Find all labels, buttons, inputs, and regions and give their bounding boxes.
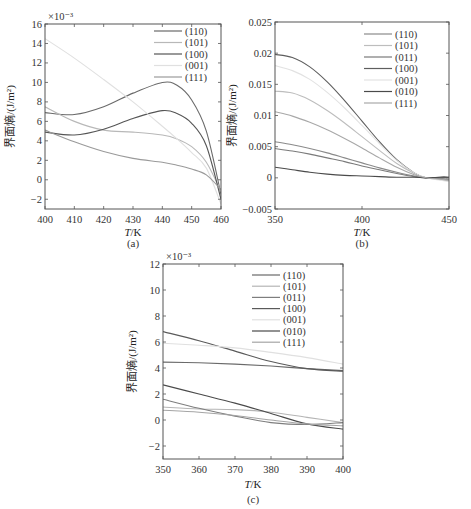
y-tick-label: 0.005	[248, 141, 272, 152]
y-tick-label: 14	[32, 38, 43, 49]
y-tick-label: 12	[150, 259, 161, 270]
legend-label: (111)	[185, 72, 207, 84]
series-lines	[275, 54, 449, 181]
legend-label: (001)	[185, 60, 208, 72]
y-tick-label: 10	[150, 285, 161, 296]
series-line-101	[163, 407, 343, 423]
y-tick-label: 0.02	[254, 48, 272, 59]
x-tick-label: 420	[96, 214, 112, 225]
series-line-100	[275, 54, 449, 178]
panel-caption: (c)	[247, 493, 260, 506]
legend-label: (011)	[283, 292, 306, 304]
y-tick-label: 0.01	[254, 110, 272, 121]
x-tick-label: 450	[441, 214, 457, 225]
legend: (110)(101)(100)(001)(111)	[154, 26, 208, 84]
chart-panel-c: 350360370380390400−2024681012×10⁻³T/K界面熵…	[125, 251, 351, 506]
legend-label: (101)	[283, 281, 306, 293]
legend: (110)(101)(011)(100)(001)(010)(111)	[252, 270, 306, 349]
legend-label: (101)	[185, 37, 208, 49]
y-tick-label: 0.025	[248, 17, 272, 28]
y-tick-label: 16	[32, 19, 43, 30]
series-line-111	[45, 130, 221, 189]
legend-label: (001)	[283, 314, 306, 326]
figure-canvas: 400410420430440450460−20246810121416×10⁻…	[0, 0, 471, 509]
series-line-011	[275, 149, 449, 180]
y-tick-label: 6	[37, 116, 42, 127]
y-tick-label: 10	[32, 77, 43, 88]
y-tick-label: 6	[155, 337, 160, 348]
chart-panel-a: 400410420430440450460−20246810121416×10⁻…	[3, 11, 229, 250]
x-tick-label: 440	[154, 214, 170, 225]
y-tick-label: 12	[32, 57, 43, 68]
series-line-001	[163, 343, 343, 364]
legend-label: (011)	[395, 52, 418, 64]
x-tick-label: 460	[213, 214, 229, 225]
legend-label: (111)	[283, 337, 305, 349]
x-axis-label: T/K	[244, 478, 261, 490]
y-multiplier-label: ×10⁻³	[48, 11, 73, 22]
y-tick-label: 4	[37, 135, 43, 146]
y-axis-label: 界面熵/(J/m²)	[125, 330, 139, 393]
series-line-101	[275, 91, 449, 181]
chart-panel-b: 350400450−0.00500.0050.010.0150.020.025T…	[225, 17, 457, 251]
x-tick-label: 390	[299, 464, 315, 475]
series-line-111	[163, 410, 343, 426]
panel-caption: (a)	[127, 237, 140, 250]
x-tick-label: 350	[155, 464, 171, 475]
x-tick-label: 380	[263, 464, 279, 475]
y-axis-label: 界面熵/(J/m²)	[3, 85, 17, 148]
x-tick-label: 430	[125, 214, 141, 225]
y-tick-label: 0	[37, 174, 42, 185]
legend-label: (010)	[395, 86, 418, 98]
y-multiplier-label: ×10⁻³	[166, 251, 191, 262]
y-tick-label: 0	[155, 415, 160, 426]
series-line-010	[163, 385, 343, 429]
legend-label: (100)	[185, 49, 208, 61]
x-tick-label: 410	[66, 214, 82, 225]
axes-frame	[163, 264, 343, 459]
y-tick-label: 8	[155, 311, 160, 322]
y-tick-label: −0.005	[242, 204, 272, 215]
legend-label: (101)	[395, 40, 418, 52]
axes-frame	[275, 22, 449, 209]
series-line-110	[45, 82, 221, 194]
legend-label: (100)	[283, 303, 306, 315]
panel-caption: (b)	[356, 237, 369, 250]
x-tick-label: 370	[227, 464, 243, 475]
x-tick-label: 400	[37, 214, 53, 225]
legend-label: (110)	[283, 270, 306, 282]
legend-label: (100)	[395, 63, 418, 75]
y-tick-label: 0.015	[248, 79, 272, 90]
legend-label: (110)	[185, 26, 208, 38]
y-axis-label: 界面熵/(J/m²)	[225, 84, 239, 147]
y-tick-label: −2	[31, 194, 42, 205]
legend-label: (110)	[395, 29, 418, 41]
legend-label: (111)	[395, 98, 417, 110]
x-tick-label: 400	[354, 214, 370, 225]
legend-label: (001)	[395, 75, 418, 87]
y-tick-label: 2	[155, 389, 160, 400]
x-tick-label: 360	[191, 464, 207, 475]
y-tick-label: 8	[37, 96, 42, 107]
y-tick-label: −2	[149, 441, 160, 452]
y-tick-label: 0	[267, 172, 272, 183]
x-tick-label: 350	[267, 214, 283, 225]
y-tick-label: 4	[155, 363, 161, 374]
series-line-101	[45, 107, 221, 192]
x-tick-label: 450	[184, 214, 200, 225]
series-lines	[163, 332, 343, 430]
legend: (110)(101)(011)(100)(001)(010)(111)	[364, 29, 418, 110]
legend-label: (010)	[283, 326, 306, 338]
x-tick-label: 400	[335, 464, 351, 475]
y-tick-label: 2	[37, 155, 42, 166]
series-line-001	[275, 66, 449, 182]
